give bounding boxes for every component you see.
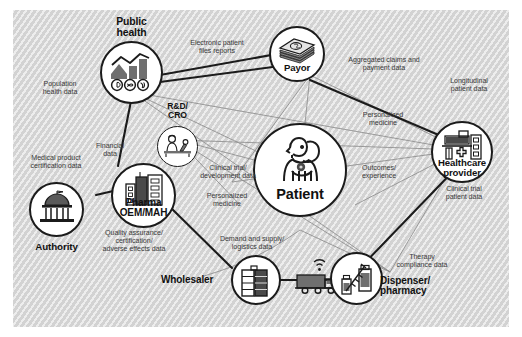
diagram-canvas: Publichealth xyxy=(0,0,522,337)
edge-label-clinical-trial-development: Clinical trial/development data xyxy=(182,165,274,181)
edge-label-financial-data: Financialdata xyxy=(84,143,136,159)
edge-label-personalized-medicine-right: Personalizedmedicine xyxy=(345,112,421,128)
node-wholesaler[interactable]: Wholesaler xyxy=(231,255,281,305)
node-label-rnd-cro: R&D/CRO xyxy=(128,102,227,120)
syringe-vial-icon xyxy=(332,262,381,298)
node-label-pharma-oem-mah: PharmaOEM/MAH xyxy=(83,198,204,219)
warehouse-shelf-icon xyxy=(233,265,279,299)
node-label-dispenser-pharmacy: Dispenser/pharmacy xyxy=(380,276,513,297)
edge-label-aggregated-claims: Aggregated claims andpayment data xyxy=(325,57,443,73)
node-label-public-health: Publichealth xyxy=(72,17,191,39)
node-label-wholesaler: Wholesaler xyxy=(161,275,193,285)
node-payor[interactable]: Payor xyxy=(269,26,325,82)
edge-label-quality-assurance: Quality assurance/certification/adverse … xyxy=(76,230,192,254)
edge-label-clinical-trial-patient-data: Clinical trialpatient data xyxy=(423,186,505,202)
edge-label-outcomes-experience: Outcomes/experience xyxy=(345,165,413,181)
node-label-healthcare-provider: Healthcareprovider xyxy=(403,158,521,178)
edge-label-electronic-patient-files: Electronic patientfiles reports xyxy=(167,40,267,56)
edge-label-personalized-medicine-left: Personalizedmedicine xyxy=(189,193,265,209)
node-authority[interactable]: Authority xyxy=(29,182,84,237)
edge-label-therapy-compliance: Therapycompliance data xyxy=(376,254,468,270)
researcher-microscope-icon xyxy=(158,134,197,160)
chart-growth-health-icon xyxy=(102,52,161,92)
node-public-health[interactable]: Publichealth xyxy=(100,41,163,104)
node-healthcare-provider[interactable]: Healthcareprovider xyxy=(431,121,493,183)
node-pharma-oem-mah[interactable]: PharmaOEM/MAH xyxy=(111,163,176,228)
government-building-icon xyxy=(31,191,82,223)
edge-label-demand-supply-logistics: Demand and supply/logistics data xyxy=(200,236,304,252)
edge-label-longitudinal-patient-data: Longitudinalpatient data xyxy=(423,78,515,94)
node-rnd-cro[interactable]: R&D/CRO xyxy=(157,126,198,167)
money-stack-icon xyxy=(271,35,323,63)
edge-label-population-health-data: Populationhealth data xyxy=(19,81,101,97)
